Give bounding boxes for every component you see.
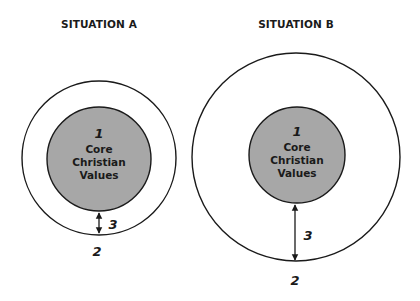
situation-a-core-number: 1 xyxy=(94,126,103,141)
situation-a-outer-label: 2 xyxy=(92,244,101,259)
situation-a-title: SITUATION A xyxy=(61,18,138,30)
situation-a: SITUATION A 1 Core Christian Values 3 2 xyxy=(22,18,176,259)
situation-b-distance-label: 3 xyxy=(303,228,312,243)
situation-b-core-line-3: Values xyxy=(277,167,316,179)
situation-a-distance-label: 3 xyxy=(108,217,117,232)
situation-b-outer-label: 2 xyxy=(290,273,299,288)
situation-a-core-line-3: Values xyxy=(79,169,118,181)
situation-b: SITUATION B 1 Core Christian Values 3 2 xyxy=(192,18,400,288)
situation-b-core-line-2: Christian xyxy=(270,154,323,166)
situation-a-core-line-1: Core xyxy=(85,143,112,155)
situation-b-core-line-1: Core xyxy=(283,141,310,153)
situation-a-core-line-2: Christian xyxy=(72,156,125,168)
situation-b-core-number: 1 xyxy=(292,124,301,139)
situation-b-title: SITUATION B xyxy=(258,18,334,30)
situation-diagram: SITUATION A 1 Core Christian Values 3 2 … xyxy=(0,0,420,301)
